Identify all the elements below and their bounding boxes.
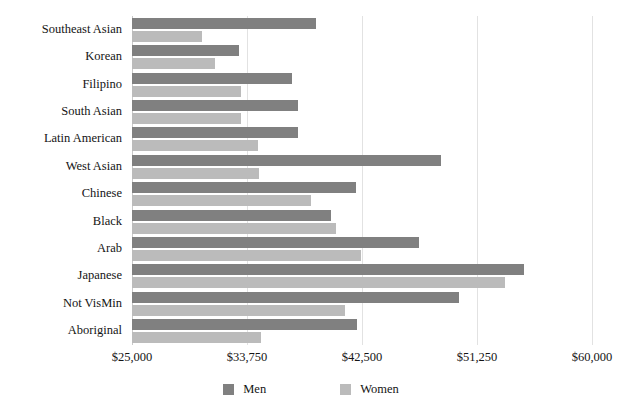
bar-women [132, 332, 261, 343]
value-axis: $25,000$33,750$42,500$51,250$60,000 [132, 349, 592, 371]
chart-legend: MenWomen [0, 378, 622, 400]
bar-men [132, 319, 357, 330]
x-tick-label: $25,000 [112, 349, 153, 365]
bar-women [132, 277, 505, 288]
legend-swatch-icon [340, 384, 351, 395]
bar-women [132, 250, 361, 261]
category-label: Southeast Asian [0, 23, 126, 36]
gridline [592, 16, 593, 345]
bar-women [132, 113, 241, 124]
bar-men [132, 73, 292, 84]
bar-women [132, 168, 259, 179]
bar-chart: Southeast AsianKoreanFilipinoSouth Asian… [0, 0, 622, 411]
category-axis: Southeast AsianKoreanFilipinoSouth Asian… [0, 16, 126, 345]
legend-swatch-icon [223, 384, 234, 395]
bar-women [132, 86, 241, 97]
bar-women [132, 58, 215, 69]
legend-item[interactable]: Women [340, 382, 399, 396]
bar-men [132, 18, 316, 29]
bar-men [132, 264, 524, 275]
bar-women [132, 195, 311, 206]
bar-men [132, 182, 356, 193]
category-label: Black [0, 215, 126, 228]
bar-men [132, 292, 459, 303]
x-tick-label: $51,250 [457, 349, 498, 365]
bars-layer [132, 16, 592, 345]
bar-women [132, 140, 258, 151]
category-label: Aboriginal [0, 324, 126, 337]
bar-men [132, 237, 419, 248]
bar-men [132, 100, 298, 111]
bar-men [132, 45, 239, 56]
legend-label: Men [243, 382, 266, 396]
bar-men [132, 210, 331, 221]
category-label: Japanese [0, 269, 126, 282]
bar-men [132, 127, 298, 138]
x-tick-label: $60,000 [572, 349, 613, 365]
x-tick-label: $33,750 [227, 349, 268, 365]
category-label: Chinese [0, 187, 126, 200]
bar-women [132, 223, 336, 234]
bar-men [132, 155, 441, 166]
plot-area [132, 16, 592, 345]
category-label: West Asian [0, 160, 126, 173]
category-label: Filipino [0, 78, 126, 91]
bar-women [132, 305, 345, 316]
category-label: Korean [0, 50, 126, 63]
category-label: Latin American [0, 132, 126, 145]
category-label: Arab [0, 242, 126, 255]
legend-item[interactable]: Men [223, 382, 266, 396]
category-label: South Asian [0, 105, 126, 118]
bar-women [132, 31, 202, 42]
category-label: Not VisMin [0, 297, 126, 310]
x-tick-label: $42,500 [342, 349, 383, 365]
legend-label: Women [360, 382, 399, 396]
